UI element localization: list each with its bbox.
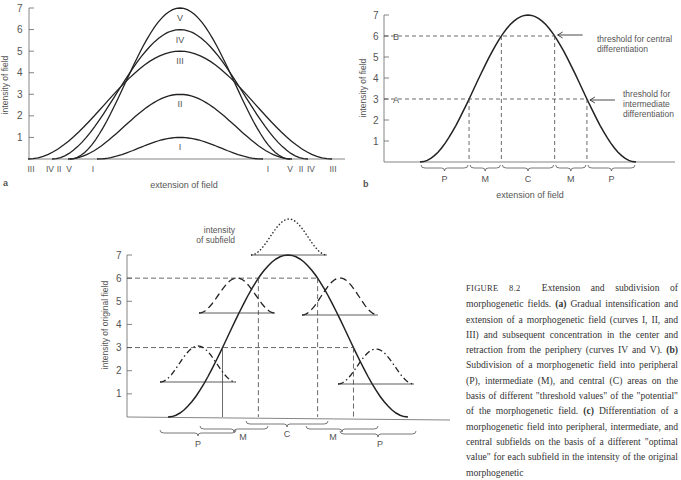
y-tick-label: 5	[116, 296, 122, 307]
panel-label-a: a	[3, 178, 9, 188]
peripheral-subfield-left	[160, 346, 236, 382]
zone-label-M: M	[567, 174, 575, 184]
zone-label-C: C	[525, 174, 532, 184]
zone-brace	[470, 165, 500, 171]
annotation-intermediate: intermediate	[623, 99, 670, 109]
y-axis-label: intensity of field	[358, 58, 368, 117]
figure-number: FIGURE 8.2	[466, 283, 521, 293]
y-axis-label: intensity of original field	[100, 281, 110, 370]
zone-label-C: C	[284, 429, 291, 439]
zone-label-P: P	[195, 439, 201, 449]
y-axis-label: intensity of field	[0, 55, 10, 114]
base-label-left: III	[27, 164, 34, 174]
y-tick-label: 6	[116, 273, 122, 284]
curve-label: II	[177, 99, 182, 109]
base-label-right: V	[287, 164, 293, 174]
curve-label: I	[179, 142, 182, 152]
arrow-central	[558, 32, 583, 38]
base-label-right: I	[267, 164, 269, 174]
base-label-right: III	[329, 164, 336, 174]
threshold-B-label: B	[393, 32, 399, 42]
zone-brace	[160, 430, 236, 436]
central-subfield	[251, 219, 327, 255]
y-tick-label: 6	[17, 24, 23, 35]
y-tick-label: 3	[373, 94, 379, 105]
annotation-central: threshold for central	[597, 34, 672, 44]
base-label-right: IV	[307, 164, 315, 174]
zone-label-P: P	[377, 439, 383, 449]
base-label-right: II	[299, 164, 304, 174]
y-tick-label: 2	[17, 110, 23, 121]
y-tick-label: 7	[116, 250, 122, 261]
y-tick-label: 4	[17, 67, 23, 78]
y-tick-label: 7	[373, 10, 379, 21]
zone-label-P: P	[442, 174, 448, 184]
y-tick-label: 4	[116, 319, 122, 330]
caption-a-label: (a)	[555, 298, 566, 309]
panel-label-b: b	[363, 179, 369, 189]
y-tick-label: 1	[116, 388, 122, 399]
y-tick-label: 5	[373, 52, 379, 63]
y-tick-label: 5	[17, 46, 23, 57]
subfield-label: intensity	[204, 225, 236, 235]
zone-brace	[340, 431, 416, 437]
subfield-label: of subfield	[196, 235, 235, 245]
peripheral-subfield-right	[338, 349, 414, 384]
annotation-central: differentiation	[597, 44, 648, 54]
y-tick-label: 1	[373, 136, 379, 147]
intermediate-subfield-right	[302, 278, 378, 315]
arrow-intermediate	[590, 97, 615, 103]
curve-label: IV	[176, 35, 185, 45]
y-tick-label: 3	[17, 89, 23, 100]
base-label-left: II	[57, 164, 62, 174]
zone-brace	[588, 165, 635, 171]
figure-caption: FIGURE 8.2 Extension and subdivision of …	[466, 280, 678, 480]
curve-5	[70, 8, 290, 159]
zone-brace	[306, 426, 378, 432]
x-axis-label: extension of field	[150, 180, 218, 190]
zone-label-M: M	[481, 174, 489, 184]
y-tick-label: 7	[17, 3, 23, 14]
y-tick-label: 1	[17, 132, 23, 143]
zone-label-M: M	[329, 432, 337, 442]
y-tick-label: 6	[373, 31, 379, 42]
base-label-left: IV	[46, 164, 54, 174]
zone-label-M: M	[239, 432, 247, 442]
zone-brace	[421, 165, 468, 171]
curve-label: V	[177, 13, 183, 23]
curve-label: III	[176, 56, 184, 66]
base-label-left: V	[66, 164, 72, 174]
caption-c-label: (c)	[583, 405, 594, 416]
caption-b-label: (b)	[666, 344, 678, 355]
annotation-intermediate: differentiation	[623, 109, 674, 119]
y-tick-label: 2	[116, 365, 122, 376]
y-tick-label: 4	[373, 73, 379, 84]
y-tick-label: 3	[116, 342, 122, 353]
y-tick-label: 2	[373, 115, 379, 126]
zone-brace	[200, 426, 268, 432]
original-field-curve	[168, 255, 408, 417]
x-axis-label: extension of field	[496, 190, 564, 200]
threshold-A-label: A	[393, 95, 399, 105]
base-label-left: I	[92, 164, 94, 174]
intermediate-subfield-left	[199, 278, 275, 313]
x-axis	[127, 417, 450, 420]
zone-brace	[502, 165, 553, 171]
annotation-intermediate: threshold for	[623, 89, 670, 99]
zone-brace	[556, 165, 586, 171]
zone-brace	[246, 421, 328, 427]
zone-label-P: P	[608, 174, 614, 184]
